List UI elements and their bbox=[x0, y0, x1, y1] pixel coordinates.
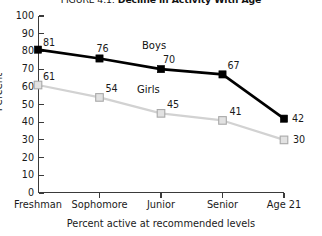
data-point-value-label: 67 bbox=[228, 61, 240, 71]
figure-title: FIGURE 4.1: Decline in Activity With Age bbox=[0, 0, 322, 5]
data-point-value-label: 81 bbox=[43, 38, 55, 48]
x-axis-tick-label: Age 21 bbox=[267, 199, 302, 210]
data-point-value-label: 70 bbox=[163, 55, 175, 65]
figure-title-text: Decline in Activity With Age bbox=[118, 0, 262, 5]
x-axis-tick-label: Junior bbox=[147, 199, 175, 210]
data-point-marker-boys bbox=[157, 66, 164, 73]
data-point-marker-girls bbox=[157, 110, 165, 118]
plot-area: 0102030405060708090100 FreshmanSophomore… bbox=[38, 16, 284, 193]
series-label-boys: Boys bbox=[142, 40, 166, 51]
y-axis-tick-label: 100 bbox=[16, 11, 34, 21]
y-axis-tick-label: 20 bbox=[22, 153, 34, 163]
data-point-marker-girls bbox=[34, 81, 42, 89]
x-axis-title: Percent active at recommended levels bbox=[0, 218, 322, 229]
x-axis-tick bbox=[222, 193, 223, 198]
x-axis-tick-label: Sophomore bbox=[71, 199, 127, 210]
y-axis-tick-label: 80 bbox=[22, 47, 34, 57]
y-axis-tick-label: 70 bbox=[22, 64, 34, 74]
y-axis-tick-label: 50 bbox=[22, 100, 34, 110]
data-point-marker-girls bbox=[96, 94, 104, 102]
x-axis-tick bbox=[160, 193, 161, 198]
x-axis-tick-label: Senior bbox=[207, 199, 238, 210]
data-point-value-label: 76 bbox=[97, 44, 109, 54]
data-point-marker-girls bbox=[280, 136, 288, 144]
figure-chart-container: FIGURE 4.1: Decline in Activity With Age… bbox=[0, 0, 322, 236]
x-axis-tick bbox=[283, 193, 284, 198]
data-point-value-label: 30 bbox=[293, 135, 305, 145]
figure-number: FIGURE 4.1: bbox=[61, 0, 115, 5]
y-axis-title: Percent bbox=[0, 73, 4, 111]
x-axis-tick bbox=[99, 193, 100, 198]
y-axis-tick-label: 40 bbox=[22, 117, 34, 127]
data-point-marker-boys bbox=[280, 115, 287, 122]
y-axis-tick-label: 10 bbox=[22, 171, 34, 181]
data-point-value-label: 54 bbox=[106, 84, 118, 94]
data-point-marker-boys bbox=[96, 55, 103, 62]
series-label-girls: Girls bbox=[137, 84, 160, 95]
data-point-value-label: 45 bbox=[167, 100, 179, 110]
data-point-marker-boys bbox=[34, 46, 41, 53]
x-axis-tick-label: Freshman bbox=[14, 199, 62, 210]
series-line-boys bbox=[38, 50, 284, 119]
y-axis-tick-label: 60 bbox=[22, 82, 34, 92]
data-point-marker-girls bbox=[219, 117, 227, 125]
data-point-value-label: 41 bbox=[230, 107, 242, 117]
y-axis-tick-label: 30 bbox=[22, 135, 34, 145]
y-axis-tick-label: 90 bbox=[22, 29, 34, 39]
y-axis-tick-label: 0 bbox=[28, 188, 34, 198]
data-point-value-label: 61 bbox=[43, 72, 55, 82]
data-point-value-label: 42 bbox=[292, 114, 304, 124]
data-point-marker-boys bbox=[219, 71, 226, 78]
